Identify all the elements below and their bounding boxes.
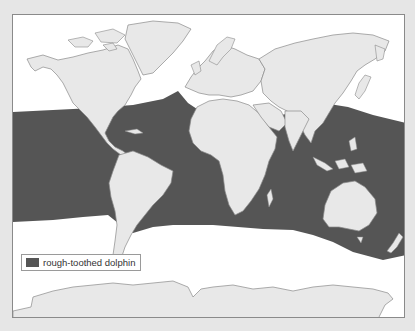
legend: rough-toothed dolphin [21,254,141,271]
land-japan [355,75,371,99]
world-map [13,15,405,318]
land-arctic-islands [68,29,125,51]
legend-label: rough-toothed dolphin [43,257,135,268]
map-frame: rough-toothed dolphin [12,14,405,318]
legend-swatch-rough-toothed-dolphin [26,258,39,267]
land-antarctica [13,281,393,318]
